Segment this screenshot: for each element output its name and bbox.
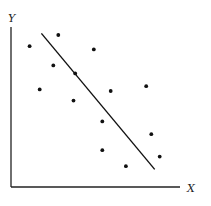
- x-axis-label: X: [186, 182, 196, 195]
- data-point: [28, 44, 32, 48]
- data-point: [149, 132, 153, 136]
- data-point: [56, 33, 60, 37]
- data-point: [100, 148, 104, 152]
- data-point: [100, 120, 104, 124]
- data-point: [72, 99, 76, 103]
- data-points: [28, 33, 162, 168]
- data-point: [144, 84, 148, 88]
- data-point: [51, 64, 55, 68]
- trend-line: [41, 33, 154, 169]
- data-point: [38, 88, 42, 92]
- data-point: [158, 155, 162, 159]
- scatter-chart: Y X: [0, 0, 211, 206]
- data-point: [92, 48, 96, 52]
- y-axis-label: Y: [8, 12, 17, 25]
- data-point: [109, 89, 113, 93]
- data-point: [124, 164, 128, 168]
